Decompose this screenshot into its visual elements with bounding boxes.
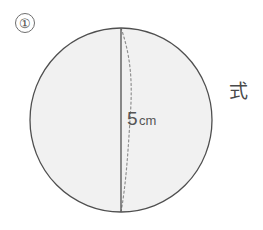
diameter-unit: cm xyxy=(139,113,156,128)
worksheet-figure: ① 5cm 式 xyxy=(0,0,263,230)
answer-prompt-label: 式 xyxy=(229,82,248,101)
diameter-measure-label: 5cm xyxy=(127,109,156,128)
diameter-value: 5 xyxy=(127,108,138,129)
